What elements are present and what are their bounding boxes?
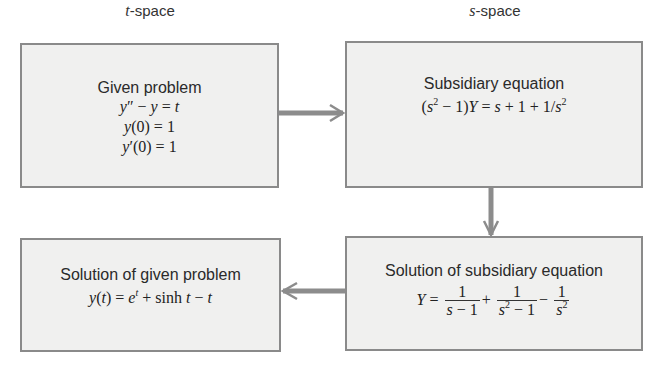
arrow-left-icon (281, 281, 345, 301)
solution-given-title: Solution of given problem (22, 266, 279, 284)
partial-fraction-equation: Y = 1s − 1+ 1s2 − 1− 1s2 (347, 284, 641, 319)
arrow-down-icon (481, 188, 501, 236)
s-space-suffix: -space (476, 2, 521, 19)
ode-equation: y″ − y = t (22, 97, 277, 117)
initial-condition-yprime: y′(0) = 1 (22, 137, 277, 157)
subsidiary-equation-box: Subsidiary equation (s2 − 1)Y = s + 1 + … (345, 41, 643, 188)
given-problem-title: Given problem (22, 79, 277, 97)
t-space-label: t-space (110, 2, 190, 20)
solution-subsidiary-title: Solution of subsidiary equation (347, 262, 641, 280)
s-space-label: s-space (455, 2, 535, 20)
solution-subsidiary-box: Solution of subsidiary equation Y = 1s −… (345, 236, 643, 351)
solution-given-box: Solution of given problem y(t) = et + si… (20, 238, 281, 352)
arrow-right-icon (279, 103, 345, 123)
subsidiary-equation-title: Subsidiary equation (347, 75, 641, 93)
subsidiary-equation: (s2 − 1)Y = s + 1 + 1/s2 (347, 97, 641, 117)
t-space-suffix: -space (130, 2, 175, 19)
initial-condition-y: y(0) = 1 (22, 117, 277, 137)
solution-equation: y(t) = et + sinh t − t (22, 288, 279, 308)
given-problem-box: Given problem y″ − y = t y(0) = 1 y′(0) … (20, 43, 279, 188)
